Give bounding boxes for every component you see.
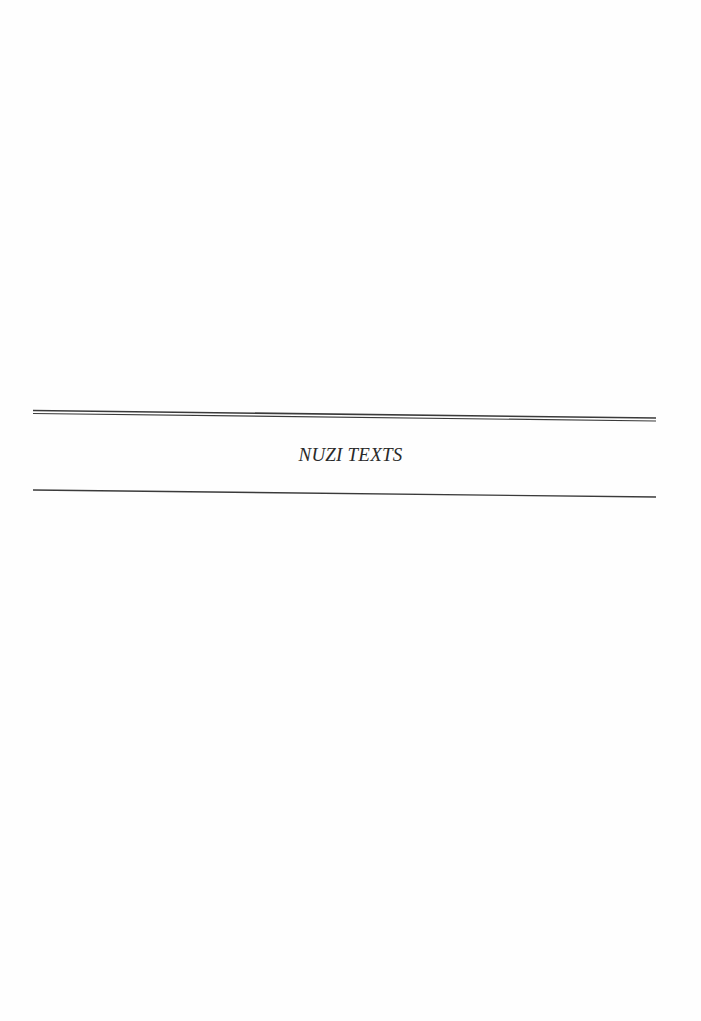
section-title: NUZI TEXTS (0, 444, 701, 466)
top-double-rule (33, 411, 656, 422)
page-rules (0, 0, 701, 1021)
bottom-rule (33, 490, 656, 497)
